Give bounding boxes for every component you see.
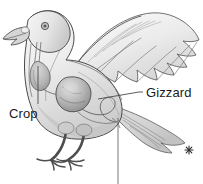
gizzard-organ — [56, 77, 91, 112]
cere — [21, 27, 29, 33]
asterisk-mark — [185, 146, 193, 154]
eye-pupil — [43, 24, 46, 27]
label-gizzard: Gizzard — [146, 86, 192, 99]
pigeon-anatomy-figure: Crop Gizzard — [0, 0, 203, 184]
foot-rear — [57, 159, 84, 170]
label-crop: Crop — [9, 107, 38, 120]
